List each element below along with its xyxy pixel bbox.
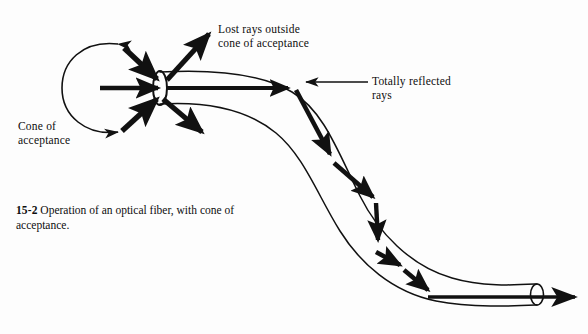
bounce-segment-5 xyxy=(376,252,400,265)
label-totally-reflected-rays: Totally reflected rays xyxy=(372,74,451,102)
bounce-segment-6 xyxy=(404,270,428,290)
input-ray-lower xyxy=(122,99,157,131)
label-cone-of-acceptance: Cone of acceptance xyxy=(18,119,70,147)
lost-ray-upper xyxy=(167,34,209,80)
figure-caption-number: 15-2 xyxy=(16,204,37,216)
bounce-segment-3 xyxy=(334,163,373,197)
input-rays xyxy=(100,48,158,131)
label-lost-rays-outside-cone: Lost rays outside cone of acceptance xyxy=(218,22,309,50)
figure-optical-fiber: Lost rays outside cone of acceptance Tot… xyxy=(0,0,588,334)
bounce-segment-4 xyxy=(376,203,378,240)
figure-caption: 15-2 Operation of an optical fiber, with… xyxy=(16,203,266,232)
totally-reflected-ray-path xyxy=(167,88,575,297)
figure-caption-text: Operation of an optical fiber, with cone… xyxy=(16,204,234,231)
lost-rays xyxy=(163,34,209,132)
exit-ellipse xyxy=(531,284,544,305)
input-ray-upper xyxy=(124,48,157,79)
bounce-segment-2 xyxy=(296,90,330,154)
optical-fiber-diagram xyxy=(0,0,588,334)
